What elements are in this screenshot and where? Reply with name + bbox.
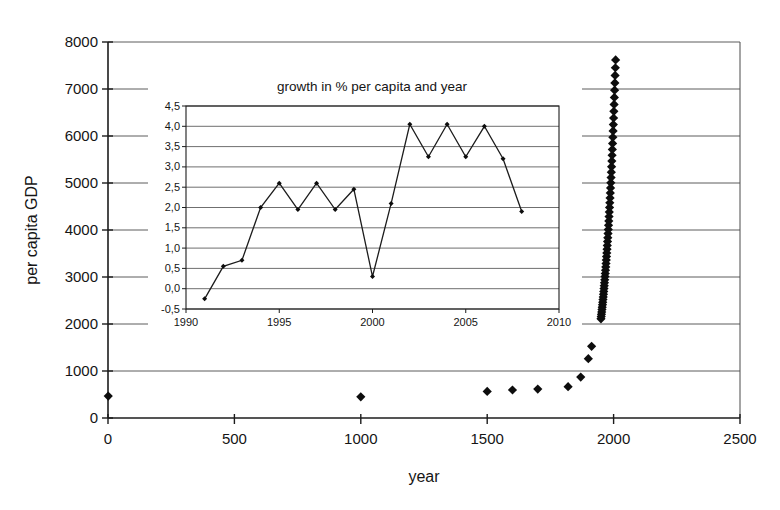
inset-x-tick-label: 2010: [547, 316, 571, 328]
y-tick-label: 0: [90, 409, 98, 426]
y-tick-label: 8000: [65, 33, 98, 50]
inset-y-tick-label: 2,0: [165, 201, 180, 213]
inset-y-tick-label: 4,0: [165, 120, 180, 132]
y-tick-label: 7000: [65, 80, 98, 97]
inset-x-tick-label: 2000: [360, 316, 384, 328]
y-tick-label: 1000: [65, 362, 98, 379]
data-point-marker: [533, 384, 542, 393]
gdp-hockey-stick-figure: 0100020003000400050006000700080000500100…: [0, 0, 780, 510]
data-point-marker: [611, 55, 620, 64]
x-tick-label: 1500: [471, 430, 504, 447]
y-tick-label: 3000: [65, 268, 98, 285]
x-tick-label: 500: [222, 430, 247, 447]
inset-title: growth in % per capita and year: [277, 79, 467, 94]
inset-y-tick-label: 1,5: [165, 221, 180, 233]
inset-x-tick-label: 1990: [174, 316, 198, 328]
inset-x-tick-label: 1995: [267, 316, 291, 328]
data-point-marker: [576, 373, 585, 382]
data-point-marker: [611, 63, 620, 72]
data-point-marker: [104, 391, 113, 400]
x-tick-label: 2500: [723, 430, 756, 447]
inset-y-tick-label: 2,5: [165, 181, 180, 193]
chart-canvas: 0100020003000400050006000700080000500100…: [0, 0, 780, 510]
inset-y-tick-label: 0,0: [165, 282, 180, 294]
inset-y-tick-label: 1,0: [165, 242, 180, 254]
x-tick-label: 0: [104, 430, 112, 447]
inset-y-tick-label: 3,0: [165, 160, 180, 172]
data-point-marker: [587, 342, 596, 351]
data-point-marker: [508, 385, 517, 394]
inset-y-tick-label: 0,5: [165, 262, 180, 274]
y-axis-title: per capita GDP: [23, 175, 41, 284]
inset-y-tick-label: 4,5: [165, 100, 180, 112]
inset-y-tick-label: 3,5: [165, 140, 180, 152]
y-tick-label: 5000: [65, 174, 98, 191]
data-point-marker: [356, 392, 365, 401]
y-tick-label: 2000: [65, 315, 98, 332]
inset-y-tick-label: -0,5: [161, 303, 180, 315]
x-tick-label: 2000: [597, 430, 630, 447]
x-axis-title: year: [408, 468, 439, 486]
data-point-marker: [584, 354, 593, 363]
data-point-marker: [483, 387, 492, 396]
inset-x-tick-label: 2005: [454, 316, 478, 328]
y-tick-label: 4000: [65, 221, 98, 238]
y-tick-label: 6000: [65, 127, 98, 144]
data-point-marker: [563, 382, 572, 391]
x-tick-label: 1000: [344, 430, 377, 447]
data-point-marker: [611, 71, 620, 80]
